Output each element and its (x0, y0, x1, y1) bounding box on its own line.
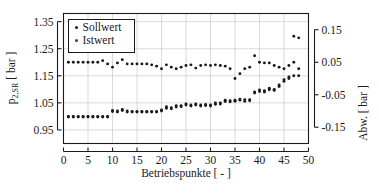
data-point (194, 103, 197, 106)
data-point (238, 72, 241, 75)
data-point (82, 116, 85, 119)
x-axis-tick-label: 15 (131, 154, 143, 166)
data-point (140, 62, 143, 65)
data-point (219, 64, 222, 67)
data-point (165, 63, 168, 66)
data-point (209, 64, 212, 67)
data-point (165, 105, 168, 108)
legend: SollwertIstwert (69, 20, 135, 53)
data-point (121, 58, 124, 61)
data-point (258, 88, 261, 91)
data-point (219, 103, 222, 106)
data-point (292, 61, 295, 64)
data-point (175, 104, 178, 107)
data-point (185, 64, 188, 67)
data-point (116, 61, 119, 64)
y-axis-left-tick-label: 1.25 (33, 43, 53, 55)
data-point (297, 74, 300, 77)
data-point (234, 100, 237, 103)
data-point (106, 116, 109, 119)
data-point (204, 103, 207, 106)
data-point (209, 105, 212, 108)
data-point (292, 35, 295, 38)
data-point (82, 61, 85, 64)
data-point (170, 66, 173, 69)
data-point (67, 61, 70, 64)
y-axis-right-title: Abw. [ bar ] (357, 85, 369, 140)
x-axis-tick-label: 0 (61, 154, 67, 166)
data-point (150, 63, 153, 66)
data-point (287, 64, 290, 67)
data-point (87, 116, 90, 119)
data-point (140, 111, 143, 114)
legend-marker (75, 39, 78, 42)
data-point (126, 62, 129, 65)
data-point (131, 111, 134, 114)
data-point (91, 61, 94, 64)
y-axis-left-tick-label: 1.15 (33, 70, 53, 82)
data-point (287, 75, 290, 78)
data-point (180, 66, 183, 69)
data-point (131, 62, 134, 65)
legend-label: Sollwert (83, 21, 123, 33)
data-point (170, 107, 173, 110)
data-point (96, 61, 99, 64)
data-point (268, 61, 271, 64)
data-point (87, 61, 90, 64)
data-point (204, 63, 207, 66)
data-point (160, 67, 163, 70)
y-axis-right: -0.15-0.050.050.15 (315, 24, 346, 134)
data-point (175, 67, 178, 70)
data-point (136, 62, 139, 65)
data-point (263, 61, 266, 64)
data-point (77, 61, 80, 64)
data-point (283, 78, 286, 81)
data-point (292, 74, 295, 77)
x-axis-title: Betriebspunkte [ - ] (141, 167, 231, 180)
data-point (238, 98, 241, 101)
x-axis-tick-label: 40 (254, 154, 266, 166)
data-point (258, 61, 261, 64)
data-point (253, 54, 256, 57)
data-point (67, 116, 70, 119)
data-point (150, 111, 153, 114)
data-point (224, 99, 227, 102)
y-axis-left-tick-label: 1.05 (33, 97, 53, 109)
x-axis-tick-label: 10 (107, 154, 119, 166)
data-point (145, 62, 148, 65)
data-point (121, 108, 124, 111)
data-point (229, 67, 232, 70)
y-axis-left-tick-label: 0.95 (33, 124, 53, 136)
data-point (229, 100, 232, 103)
data-point (189, 105, 192, 108)
y-axis-left-title-text: p2,SR [ bar ] (5, 52, 20, 105)
data-point (273, 64, 276, 67)
legend-marker (75, 26, 78, 29)
data-point (253, 92, 256, 95)
data-point (72, 61, 75, 64)
x-axis-tick-label: 20 (156, 154, 168, 166)
data-point (185, 103, 188, 106)
x-axis-tick-label: 25 (180, 154, 192, 166)
data-point (136, 111, 139, 114)
data-point (248, 66, 251, 69)
y-axis-left-title: p2,SR [ bar ] (5, 52, 20, 105)
data-point (101, 116, 104, 119)
data-point (96, 116, 99, 119)
data-point (91, 116, 94, 119)
data-point (126, 111, 129, 114)
data-point (77, 116, 80, 119)
data-point (224, 65, 227, 68)
data-point (214, 101, 217, 104)
data-point (234, 77, 237, 80)
data-point (243, 100, 246, 103)
data-point (268, 87, 271, 90)
data-point (155, 111, 158, 114)
data-point (101, 59, 104, 62)
x-axis-tick-label: 35 (229, 154, 241, 166)
data-point (283, 67, 286, 70)
data-point (72, 116, 75, 119)
data-point (199, 105, 202, 108)
x-axis-tick-label: 45 (278, 154, 290, 166)
data-point (214, 63, 217, 66)
